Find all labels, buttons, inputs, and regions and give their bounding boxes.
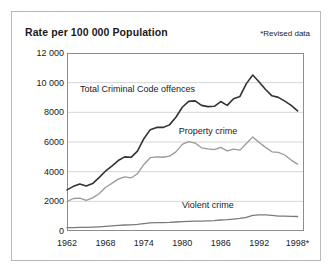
figure-container: Rate per 100 000 Population *Revised dat…	[11, 11, 321, 261]
x-axis-tick-label: 1986	[211, 238, 231, 248]
series-label-3: Violent crime	[182, 200, 234, 210]
x-axis-tick-label: 1992	[249, 238, 269, 248]
x-axis-tick-label: 1998*	[286, 238, 310, 248]
series-label-1: Total Criminal Code offences	[80, 84, 195, 94]
plot-area: 12 00010 00080006000400020000 1962196819…	[12, 12, 322, 262]
x-axis-tick-label: 1974	[134, 238, 154, 248]
x-axis-tick-label: 1962	[57, 238, 77, 248]
series-label-2: Property crime	[179, 126, 238, 136]
x-axis-tick-label: 1968	[95, 238, 115, 248]
x-axis-tick-label: 1980	[172, 238, 192, 248]
x-axis-ticks: 1962196819741980198619921998*Total Crimi…	[12, 12, 322, 262]
